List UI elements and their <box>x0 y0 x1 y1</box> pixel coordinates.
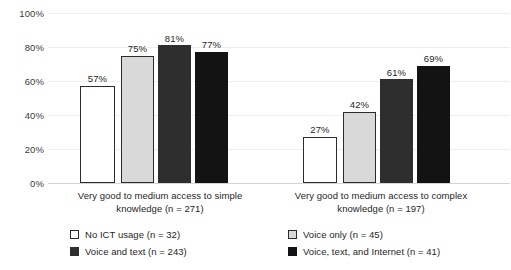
legend-swatch-icon-voice-only <box>288 230 297 239</box>
legend-label-voice-text-and-internet: Voice, text, and Internet (n = 41) <box>303 246 440 257</box>
legend-item-voice-only[interactable]: Voice only (n = 45) <box>288 226 440 243</box>
plot-area: 57% 75% 81% 77% 27% 42% 61% 69% <box>48 13 510 183</box>
bar-group0-voice-only[interactable] <box>121 56 154 184</box>
bar-value-group1-no-ict-usage: 27% <box>310 124 329 135</box>
bar-group0-voice-and-text[interactable] <box>158 45 191 183</box>
bar-group0-no-ict-usage[interactable] <box>80 86 115 183</box>
y-axis-tick-0: 0% <box>0 178 44 189</box>
legend-label-voice-only: Voice only (n = 45) <box>303 229 383 240</box>
category-label-simple-knowledge: Very good to medium access to simple kno… <box>58 190 262 215</box>
bar-value-group1-voice-and-text: 61% <box>387 67 406 78</box>
bar-group1-voice-text-and-internet[interactable] <box>417 66 450 183</box>
bar-group1-voice-only[interactable] <box>343 112 376 183</box>
bar-group1-no-ict-usage[interactable] <box>303 137 337 183</box>
bar-chart: 100% 80% 60% 40% 20% 0% 57% 75% 81% 77% … <box>0 0 511 270</box>
bar-group1-voice-and-text[interactable] <box>380 79 413 183</box>
legend-swatch-icon-no-ict-usage <box>70 230 79 239</box>
y-axis-tick-60: 60% <box>0 76 44 87</box>
gridline-80 <box>48 47 510 48</box>
bar-value-group0-no-ict-usage: 57% <box>88 73 107 84</box>
bar-value-group1-voice-text-and-internet: 69% <box>424 53 443 64</box>
legend-column-right: Voice only (n = 45) Voice, text, and Int… <box>288 226 440 260</box>
legend-label-no-ict-usage: No ICT usage (n = 32) <box>85 229 180 240</box>
gridline-0 <box>48 183 510 184</box>
category-label-complex-knowledge: Very good to medium access to complex kn… <box>276 190 486 215</box>
y-axis-tick-80: 80% <box>0 42 44 53</box>
legend-item-no-ict-usage[interactable]: No ICT usage (n = 32) <box>70 226 187 243</box>
bar-value-group0-voice-text-and-internet: 77% <box>202 39 221 50</box>
y-axis-tick-40: 40% <box>0 110 44 121</box>
bar-value-group0-voice-and-text: 81% <box>165 33 184 44</box>
legend-label-voice-and-text: Voice and text (n = 243) <box>85 246 187 257</box>
legend-column-left: No ICT usage (n = 32) Voice and text (n … <box>70 226 187 260</box>
legend-swatch-icon-voice-and-text <box>70 247 79 256</box>
legend-swatch-icon-voice-text-and-internet <box>288 247 297 256</box>
legend-item-voice-text-and-internet[interactable]: Voice, text, and Internet (n = 41) <box>288 243 440 260</box>
bar-group0-voice-text-and-internet[interactable] <box>195 52 228 183</box>
bar-value-group0-voice-only: 75% <box>128 43 147 54</box>
legend-item-voice-and-text[interactable]: Voice and text (n = 243) <box>70 243 187 260</box>
gridline-100 <box>48 13 510 14</box>
bar-value-group1-voice-only: 42% <box>350 99 369 110</box>
y-axis-tick-20: 20% <box>0 144 44 155</box>
y-axis-tick-100: 100% <box>0 8 44 19</box>
